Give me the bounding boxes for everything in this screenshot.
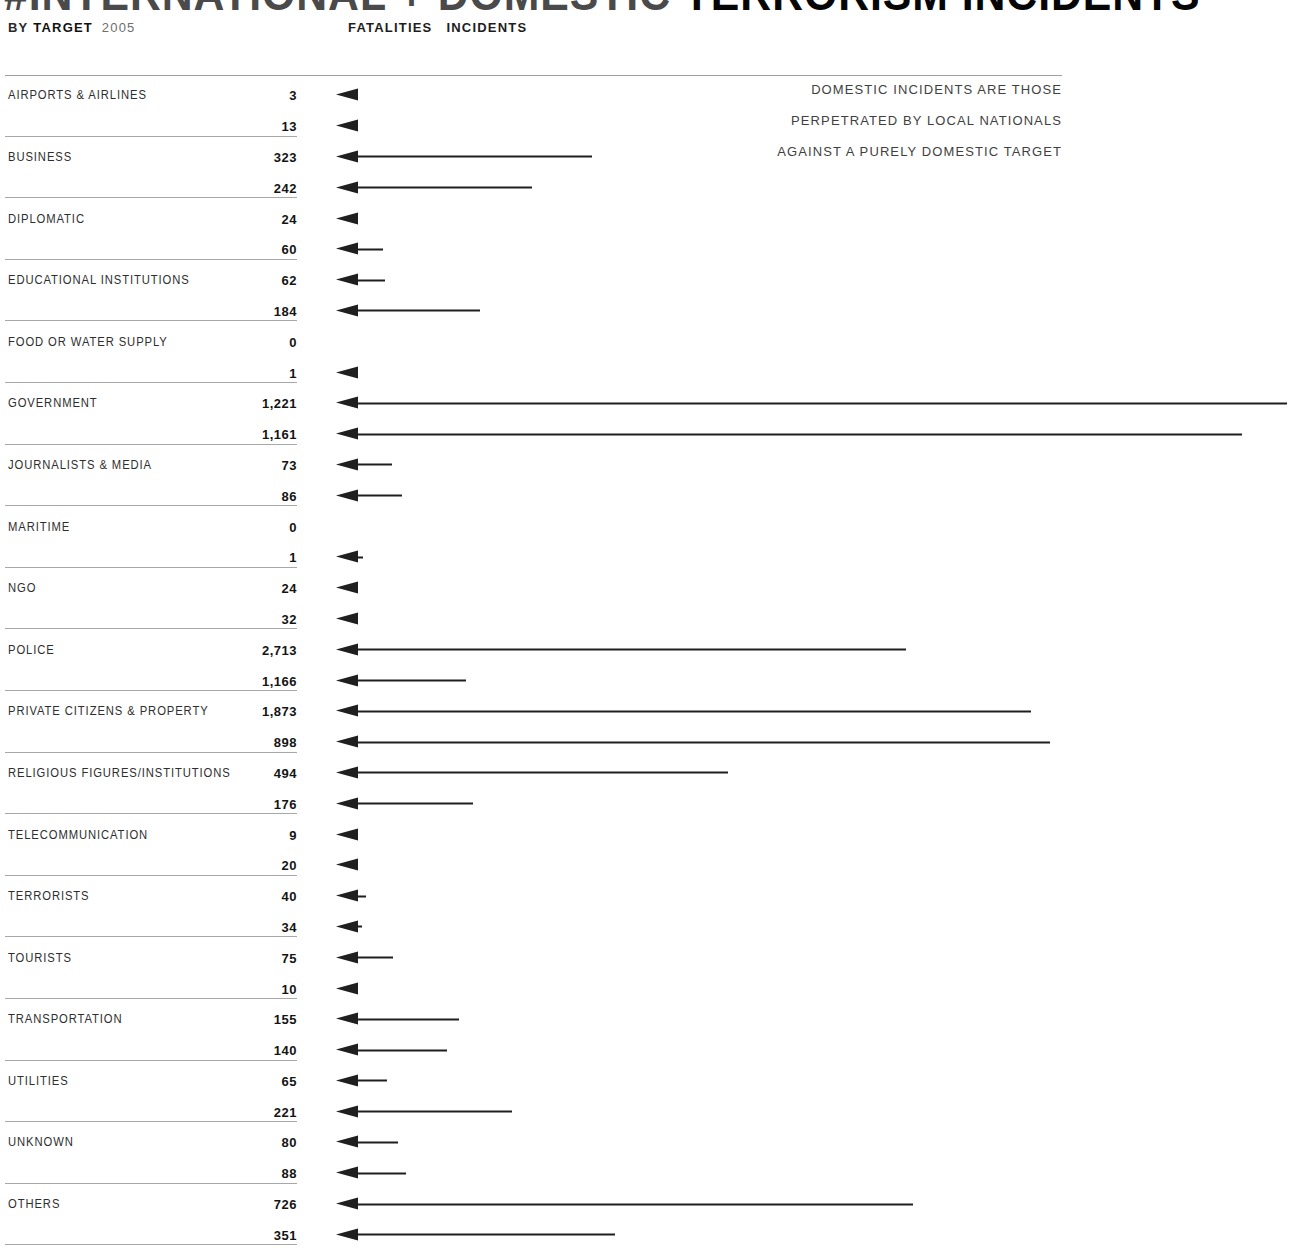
incidents-arrow-bar [336, 920, 362, 933]
arrow-shaft [354, 1111, 512, 1113]
left-arrowhead-icon [336, 366, 358, 378]
incidents-value: 34 [170, 919, 297, 934]
page-title-bold: TERRORISM INCIDENTS [684, 0, 1201, 20]
incidents-value: 140 [170, 1043, 297, 1058]
left-arrowhead-icon [336, 212, 358, 224]
left-arrowhead-icon [336, 612, 358, 624]
fatalities-row: UTILITIES65 [0, 1066, 1292, 1097]
incidents-value: 898 [170, 735, 297, 750]
incidents-value: 60 [170, 242, 297, 257]
incidents-arrow-bar [336, 366, 358, 379]
incidents-arrow-bar [336, 489, 402, 502]
category-block: UNKNOWN8088 [0, 1127, 1292, 1189]
incidents-value: 20 [170, 858, 297, 873]
category-block: TOURISTS7510 [0, 942, 1292, 1004]
incidents-row: 1 [0, 357, 1292, 388]
arrow-shaft [354, 895, 366, 897]
incidents-arrow-bar [336, 243, 383, 256]
fatalities-value: 62 [170, 273, 297, 288]
incidents-row: 140 [0, 1035, 1292, 1066]
fatalities-row: OTHERS726 [0, 1189, 1292, 1220]
fatalities-row: RELIGIOUS FIGURES/INSTITUTIONS494 [0, 758, 1292, 789]
subtitle-target: TARGET [33, 20, 93, 35]
fatalities-row: UNKNOWN80 [0, 1127, 1292, 1158]
incidents-arrow-bar [336, 304, 480, 317]
incidents-value: 1 [170, 550, 297, 565]
incidents-arrow-bar [336, 1167, 406, 1180]
incidents-value: 1 [170, 365, 297, 380]
fatalities-arrow-bar [336, 89, 358, 102]
category-block: OTHERS726351 [0, 1189, 1292, 1251]
fatalities-value: 65 [170, 1073, 297, 1088]
incidents-row: 242 [0, 172, 1292, 203]
category-block: TRANSPORTATION155140 [0, 1004, 1292, 1066]
incidents-value: 1,161 [170, 427, 297, 442]
incidents-value: 10 [170, 981, 297, 996]
arrow-shaft [354, 1018, 459, 1020]
incidents-row: 898 [0, 727, 1292, 758]
fatalities-arrow-bar [336, 582, 358, 595]
arrow-shaft [354, 464, 392, 466]
arrow-shaft [354, 556, 363, 558]
category-label: TOURISTS [8, 951, 72, 965]
fatalities-row: AIRPORTS & AIRLINES3 [0, 80, 1292, 111]
incidents-row: 184 [0, 296, 1292, 327]
fatalities-row: DIPLOMATIC24 [0, 203, 1292, 234]
incidents-value: 86 [170, 488, 297, 503]
category-block: TERRORISTS4034 [0, 881, 1292, 943]
chart-subtitle: BY TARGET 2005 [8, 20, 136, 35]
fatalities-arrow-bar [336, 1013, 459, 1026]
arrow-shaft [354, 1172, 406, 1174]
incidents-row: 13 [0, 111, 1292, 142]
incidents-arrow-bar [336, 736, 1050, 749]
subtitle-year: 2005 [102, 20, 136, 35]
incidents-arrow-bar [336, 1044, 447, 1057]
fatalities-row: BUSINESS323 [0, 142, 1292, 173]
fatalities-row: POLICE2,713 [0, 634, 1292, 665]
category-label: AIRPORTS & AIRLINES [8, 88, 147, 102]
category-block: DIPLOMATIC2460 [0, 203, 1292, 265]
fatalities-row: NGO24 [0, 573, 1292, 604]
fatalities-arrow-bar [336, 643, 906, 656]
arrow-shaft [354, 1049, 447, 1051]
category-block: BUSINESS323242 [0, 142, 1292, 204]
fatalities-arrow-bar [336, 705, 1031, 718]
fatalities-arrow-bar [336, 150, 592, 163]
incidents-arrow-bar [336, 1105, 512, 1118]
category-label: UNKNOWN [8, 1135, 74, 1149]
left-arrowhead-icon [336, 859, 358, 871]
fatalities-arrow-bar [336, 766, 728, 779]
incidents-row: 20 [0, 850, 1292, 881]
incidents-arrow-bar [336, 612, 359, 625]
fatalities-arrow-bar [336, 458, 392, 471]
category-block: UTILITIES65221 [0, 1066, 1292, 1128]
left-arrowhead-icon [336, 120, 358, 132]
incidents-value: 351 [170, 1227, 297, 1242]
fatalities-value: 0 [170, 334, 297, 349]
category-block: TELECOMMUNICATION920 [0, 819, 1292, 881]
incidents-arrow-bar [336, 120, 358, 133]
fatalities-row: PRIVATE CITIZENS & PROPERTY1,873 [0, 696, 1292, 727]
column-headers: FATALITIES INCIDENTS [348, 20, 527, 35]
arrow-shaft [354, 310, 480, 312]
fatalities-arrow-bar [336, 828, 358, 841]
left-arrowhead-icon [336, 89, 358, 101]
category-block: MARITIME01 [0, 511, 1292, 573]
incidents-value: 176 [170, 796, 297, 811]
fatalities-column-header: FATALITIES [348, 20, 432, 35]
category-label: EDUCATIONAL INSTITUTIONS [8, 273, 190, 287]
arrow-shaft [354, 1234, 615, 1236]
incidents-arrow-bar [336, 428, 1242, 441]
fatalities-value: 0 [170, 519, 297, 534]
incidents-arrow-bar [336, 797, 473, 810]
fatalities-arrow-bar [336, 1198, 913, 1211]
category-label: TELECOMMUNICATION [8, 828, 148, 842]
arrow-shaft [354, 957, 393, 959]
fatalities-arrow-bar [336, 951, 393, 964]
fatalities-value: 3 [170, 88, 297, 103]
incidents-row: 60 [0, 234, 1292, 265]
category-label: FOOD OR WATER SUPPLY [8, 335, 168, 349]
fatalities-value: 80 [170, 1135, 297, 1150]
incidents-row: 1,166 [0, 665, 1292, 696]
fatalities-row: TELECOMMUNICATION9 [0, 819, 1292, 850]
